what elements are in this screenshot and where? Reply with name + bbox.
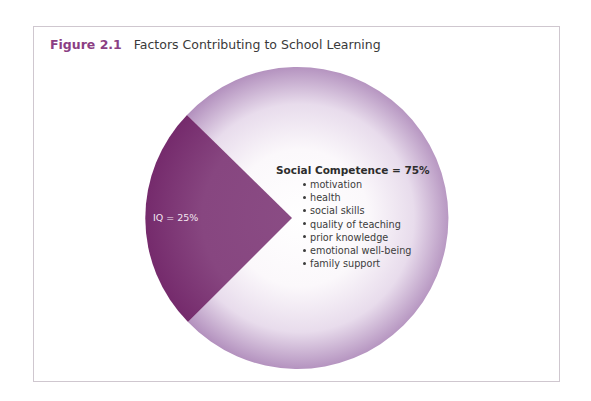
bullet-icon: [303, 222, 306, 225]
iq-slice-label: IQ = 25%: [153, 212, 198, 223]
list-item: prior knowledge: [303, 231, 430, 244]
list-item: family support: [303, 257, 430, 270]
bullet-icon: [303, 235, 306, 238]
list-item: social skills: [303, 204, 430, 217]
bullet-icon: [303, 183, 306, 186]
social-competence-annotation: Social Competence = 75% motivation healt…: [276, 164, 430, 270]
social-competence-label: Social Competence = 75%: [276, 164, 430, 176]
factor-list: motivation health social skills quality …: [276, 178, 430, 270]
bullet-icon: [303, 262, 306, 265]
list-item: quality of teaching: [303, 218, 430, 231]
list-item: motivation: [303, 178, 430, 191]
bullet-icon: [303, 249, 306, 252]
list-item: emotional well-being: [303, 244, 430, 257]
bullet-icon: [303, 196, 306, 199]
bullet-icon: [303, 209, 306, 212]
list-item: health: [303, 191, 430, 204]
